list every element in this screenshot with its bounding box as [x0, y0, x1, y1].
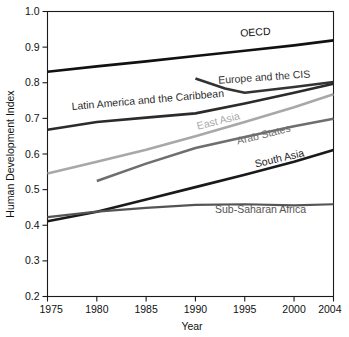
y-axis-title: Human Development Index	[4, 90, 16, 218]
x-tick-label: 1985	[134, 303, 158, 315]
chart-canvas: 0.20.30.40.50.60.70.80.91.0 197519801985…	[0, 0, 349, 337]
y-tick-label: 0.9	[25, 41, 40, 53]
y-tick-label: 0.6	[25, 148, 40, 160]
hdi-trend-chart: 0.20.30.40.50.60.70.80.91.0 197519801985…	[0, 0, 349, 337]
y-tick-label: 0.7	[25, 112, 40, 124]
x-tick-label: 1975	[40, 303, 64, 315]
y-tick-label: 1.0	[25, 5, 40, 17]
x-tick-label: 1995	[233, 303, 257, 315]
series-line-oecd	[48, 40, 334, 71]
x-tick-label: 2000	[282, 303, 306, 315]
y-tick-label: 0.2	[25, 290, 40, 302]
series-label-oecd: OECD	[240, 25, 272, 39]
x-tick-label: 1990	[184, 303, 208, 315]
x-axis-ticks: 1975198019851990199520002004	[40, 297, 342, 315]
series-label-arab-states: Arab States	[235, 122, 291, 147]
x-tick-label: 2004	[318, 303, 342, 315]
series-label-latin-america-and-the-caribbean: Latin America and the Caribbean	[71, 87, 225, 112]
series-label-europe-and-the-cis: Europe and the CIS	[218, 67, 311, 85]
y-tick-label: 0.4	[25, 219, 40, 231]
series-label-sub-saharan-africa: Sub-Saharan Africa	[215, 203, 306, 215]
x-axis-title: Year	[181, 320, 203, 332]
x-tick-label: 1980	[85, 303, 109, 315]
y-tick-label: 0.8	[25, 76, 40, 88]
y-tick-label: 0.3	[25, 254, 40, 266]
y-axis-ticks: 0.20.30.40.50.60.70.80.91.0	[25, 5, 48, 302]
y-tick-label: 0.5	[25, 183, 40, 195]
